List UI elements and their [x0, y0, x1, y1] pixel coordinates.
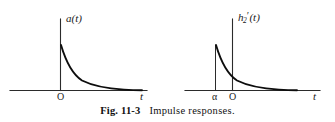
right-plot-origin-label: O — [229, 92, 236, 102]
left-plot-t-axis-label: t — [140, 91, 143, 102]
figure-number: Fig. 11-3 — [100, 105, 140, 116]
left-plot-origin-label: O — [57, 92, 64, 102]
figure-caption: Fig. 11-3Impulse responses. — [0, 104, 335, 117]
figure-impulse-responses: a(t) O t h2′(t) α O t Fig. 11-3Impulse r… — [0, 0, 335, 122]
right-plot-decay-curve — [216, 45, 297, 90]
right-plot-group — [185, 19, 320, 91]
right-plot-function-label: h2′(t) — [238, 12, 260, 23]
figure-caption-text: Impulse responses. — [150, 105, 235, 116]
left-plot-function-label: a(t) — [66, 13, 82, 24]
left-plot-group — [10, 19, 147, 91]
right-plot-alpha-label: α — [212, 92, 217, 102]
right-plot-function-arg: (t) — [249, 11, 259, 23]
left-plot-decay-curve — [61, 45, 142, 90]
right-plot-t-axis-label: t — [313, 91, 316, 102]
